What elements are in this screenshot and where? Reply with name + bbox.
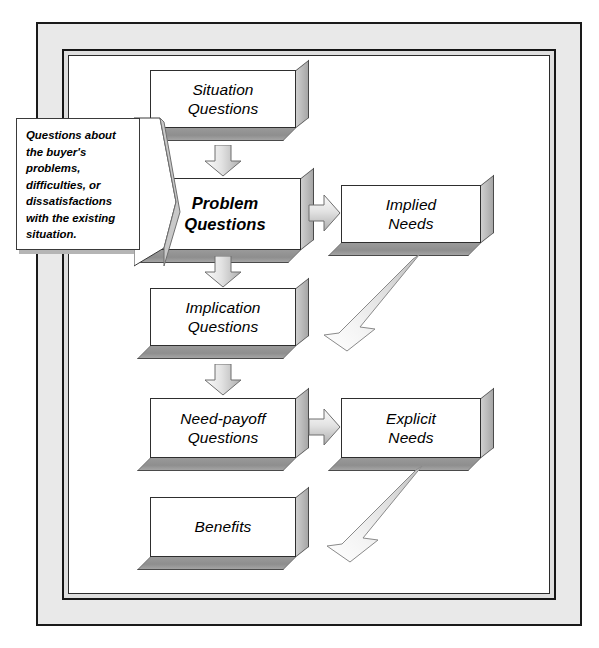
- box-label-line2: Questions: [188, 318, 259, 335]
- box-label-line1: Implication: [185, 299, 260, 316]
- callout-problem-questions[interactable]: Questions about the buyer's problems, di…: [16, 118, 140, 250]
- arrow-situation-to-problem-icon: [203, 145, 243, 177]
- box-label-line1: Problem: [192, 194, 259, 212]
- box-label-line1: Benefits: [195, 518, 252, 535]
- box-label-line2: Questions: [188, 429, 259, 446]
- box-bottom-panel: [137, 346, 296, 359]
- arrow-problem-to-implied-needs-icon: [308, 193, 342, 233]
- box-face: Implication Questions: [150, 288, 296, 346]
- box-label-line2: Needs: [388, 429, 433, 446]
- box-label-line2: Questions: [188, 100, 259, 117]
- box-explicit-needs[interactable]: Explicit Needs: [341, 398, 481, 458]
- box-side-panel: [296, 60, 309, 128]
- callout-tail: [134, 116, 184, 284]
- arrow-implied-needs-to-implication-icon: [312, 253, 432, 358]
- box-side-panel: [481, 388, 494, 458]
- arrow-implication-to-need-payoff-icon: [203, 364, 243, 396]
- arrow-problem-to-implication-icon: [203, 256, 243, 288]
- box-side-panel: [481, 175, 494, 243]
- box-bottom-panel: [137, 557, 296, 570]
- callout-text: Questions about the buyer's problems, di…: [26, 127, 131, 243]
- box-label-line1: Situation: [192, 81, 253, 98]
- box-face: Explicit Needs: [341, 398, 481, 458]
- box-label-line1: Implied: [386, 196, 437, 213]
- arrow-explicit-needs-to-benefits-icon: [312, 464, 437, 569]
- box-face: Benefits: [150, 497, 296, 557]
- arrow-need-payoff-to-explicit-needs-icon: [308, 407, 342, 447]
- box-implication-questions[interactable]: Implication Questions: [150, 288, 296, 346]
- box-label-line1: Need-payoff: [180, 410, 266, 427]
- box-benefits[interactable]: Benefits: [150, 497, 296, 557]
- box-face: Implied Needs: [341, 185, 481, 243]
- box-side-panel: [296, 278, 309, 346]
- box-label-line2: Questions: [184, 215, 266, 233]
- box-need-payoff-questions[interactable]: Need-payoff Questions: [150, 398, 296, 458]
- box-label-line2: Needs: [388, 215, 433, 232]
- callout-body: Questions about the buyer's problems, di…: [16, 118, 140, 250]
- box-face: Need-payoff Questions: [150, 398, 296, 458]
- box-implied-needs[interactable]: Implied Needs: [341, 185, 481, 243]
- box-bottom-panel: [137, 458, 296, 471]
- diagram-page: Situation Questions Problem Questions Im…: [0, 0, 599, 648]
- box-label-line1: Explicit: [386, 410, 436, 427]
- box-side-panel: [296, 487, 309, 557]
